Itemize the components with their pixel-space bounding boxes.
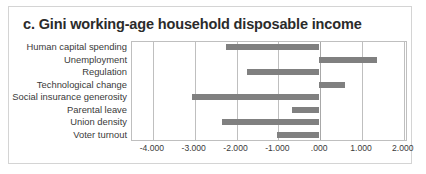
x-tick-label: 1.000 <box>350 143 372 153</box>
bar <box>247 69 319 75</box>
category-label: Regulation <box>82 67 127 77</box>
bar <box>319 57 377 63</box>
bar-row <box>131 94 407 100</box>
bar <box>192 94 320 100</box>
bar-row <box>131 107 407 113</box>
category-label: Human capital spending <box>26 42 127 52</box>
category-label: Unemployment <box>64 55 127 65</box>
bar <box>292 107 320 113</box>
bar <box>319 82 345 88</box>
bar <box>277 132 319 138</box>
chart-title: c. Gini working-age household disposable… <box>23 16 362 32</box>
bar <box>226 44 319 50</box>
category-label: Union density <box>70 117 127 127</box>
plot-wrap <box>131 41 407 141</box>
x-tick-label: 2.000 <box>392 143 414 153</box>
category-label: Social insurance generosity <box>12 92 127 102</box>
category-axis-labels: Human capital spendingUnemploymentRegula… <box>15 41 129 141</box>
x-tick-label: .000 <box>311 143 328 153</box>
x-tick-label: -3.000 <box>182 143 206 153</box>
bars-layer <box>131 41 407 141</box>
x-tick-label: -1.000 <box>265 143 289 153</box>
category-label: Voter turnout <box>73 130 127 140</box>
bar-row <box>131 69 407 75</box>
bar-row <box>131 132 407 138</box>
chart-card: c. Gini working-age household disposable… <box>8 6 412 164</box>
bar-row <box>131 119 407 125</box>
bar-row <box>131 82 407 88</box>
x-tick-label: -2.000 <box>223 143 247 153</box>
category-label: Technological change <box>37 80 127 90</box>
bar <box>222 119 319 125</box>
bar-row <box>131 44 407 50</box>
bar-row <box>131 57 407 63</box>
value-axis-labels: -4.000-3.000-2.000-1.000.0001.0002.000 <box>131 143 407 157</box>
x-tick-label: -4.000 <box>140 143 164 153</box>
category-label: Parental leave <box>67 105 127 115</box>
